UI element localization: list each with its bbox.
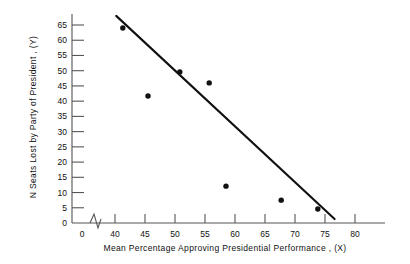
y-tick-label: 50 (58, 66, 68, 76)
x-tick-label: 65 (260, 229, 270, 239)
x-tick-label: 45 (140, 229, 150, 239)
data-point (315, 206, 320, 211)
y-tick-label: 20 (58, 157, 68, 167)
x-axis-title: Mean Percentage Approving Presidential P… (95, 243, 355, 253)
data-point (279, 197, 284, 202)
data-point (177, 69, 182, 74)
y-tick-label: 60 (58, 35, 68, 45)
y-tick-label: 30 (58, 127, 68, 137)
x-tick-label: 60 (230, 229, 240, 239)
y-tick-label: 45 (58, 81, 68, 91)
x-tick-label: 80 (350, 229, 360, 239)
plot-area: 0510152025303540455055606504045505560657… (0, 0, 410, 264)
x-tick-label: 70 (290, 229, 300, 239)
x-tick-label: 50 (170, 229, 180, 239)
y-tick-label: 40 (58, 96, 68, 106)
x-tick-label: 75 (320, 229, 330, 239)
data-point (120, 25, 125, 30)
x-tick-label: 0 (80, 229, 85, 239)
x-axis-break-icon (90, 214, 101, 228)
y-tick-label: 5 (62, 203, 67, 213)
data-point (207, 80, 212, 85)
data-point (223, 183, 228, 188)
x-tick-label: 40 (110, 229, 120, 239)
scatter-chart: 0510152025303540455055606504045505560657… (0, 0, 410, 264)
y-tick-label: 10 (58, 188, 68, 198)
y-tick-label: 15 (58, 172, 68, 182)
data-point (145, 93, 150, 98)
x-tick-label: 55 (200, 229, 210, 239)
y-axis-title: N Seats Lost by Party of President , (Y) (28, 22, 38, 212)
y-tick-label: 55 (58, 50, 68, 60)
y-tick-label: 65 (58, 20, 68, 30)
y-tick-label: 35 (58, 111, 68, 121)
y-tick-label: 0 (62, 218, 67, 228)
y-tick-label: 25 (58, 142, 68, 152)
